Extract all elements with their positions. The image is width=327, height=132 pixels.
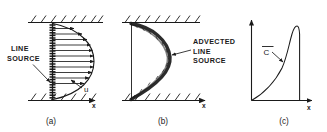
panel-c-concentration-curve xyxy=(252,26,300,101)
panel-a-bottom-wall: x xyxy=(28,94,96,110)
advected-line-source-label-line-2: LINE xyxy=(193,47,211,56)
panel-a-caption: (a) xyxy=(46,117,56,126)
figure-container: x xyxy=(0,0,327,132)
panel-a-top-wall-hatching xyxy=(31,16,103,23)
panel-a-x-axis-label: x xyxy=(92,102,96,109)
panel-a-top-wall xyxy=(28,16,103,23)
panel-c-x-axis-label: x xyxy=(307,104,311,111)
line-source-label-line-1: LINE xyxy=(11,44,29,53)
advected-line-source-label-line-3: SOURCE xyxy=(193,56,226,65)
panel-b-top-wall-hatching xyxy=(125,16,200,23)
line-source-label-line-2: SOURCE xyxy=(7,54,40,63)
panel-c: x C (c) xyxy=(252,20,313,126)
panel-b: x ADVE xyxy=(122,16,235,127)
panel-a-line-source-callout: LINE SOURCE xyxy=(7,44,50,82)
panel-b-advected-line-source-curve xyxy=(131,24,170,100)
advected-line-source-label-line-1: ADVECTED xyxy=(193,37,235,46)
mean-concentration-label: C xyxy=(264,48,270,57)
figure-svg: x xyxy=(0,0,327,132)
panel-c-mean-concentration-callout: C xyxy=(262,47,283,63)
panel-b-advected-line-source-callout: ADVECTED LINE SOURCE xyxy=(172,37,235,65)
panel-c-caption: (c) xyxy=(279,117,289,126)
panel-a: x xyxy=(7,16,103,127)
panel-a-u-label: u xyxy=(84,85,88,94)
panel-b-x-axis-label: x xyxy=(202,102,206,109)
panel-a-velocity-arrows xyxy=(53,29,94,84)
panel-b-caption: (b) xyxy=(158,117,168,126)
panel-b-top-wall xyxy=(122,16,200,23)
